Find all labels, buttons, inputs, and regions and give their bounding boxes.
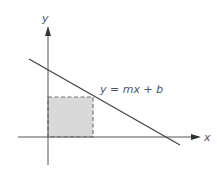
diagram-canvas: y x y = mx + b [0,0,217,170]
x-axis-arrow-icon [191,134,201,140]
y-axis-arrow-icon [45,26,51,36]
equation-label: y = mx + b [99,83,163,96]
shaded-rectangle [48,97,93,137]
x-axis-label: x [203,131,211,144]
y-axis-label: y [41,12,49,25]
